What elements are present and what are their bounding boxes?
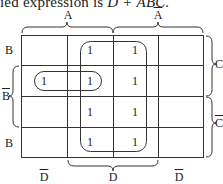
label-b-bar: B (0, 90, 12, 102)
label-b-bottom: B (3, 137, 15, 149)
label-c-bar: C (214, 117, 223, 129)
cell-r1-c3: 1 (129, 44, 141, 56)
cell-r4-c2: 1 (84, 136, 96, 148)
cell-r2-c2: 1 (84, 75, 96, 87)
label-b-top: B (3, 44, 15, 56)
cell-r2-c1: 1 (38, 75, 50, 87)
cell-r1-c2: 1 (84, 44, 96, 56)
label-d-bar-right: D (173, 171, 185, 183)
label-d: D (107, 171, 119, 183)
cell-r2-c3: 1 (129, 75, 141, 87)
cell-r4-c3: 1 (129, 136, 141, 148)
brace-a (22, 22, 113, 33)
cell-r3-c3: 1 (129, 106, 141, 118)
label-c: C (214, 58, 223, 70)
brace-a-bar (113, 22, 203, 33)
label-d-bar-left: D (38, 171, 50, 183)
label-a: A (62, 9, 74, 21)
cell-r3-c2: 1 (84, 106, 96, 118)
label-a-bar: A (152, 9, 164, 21)
karnaugh-map-diagram (0, 0, 223, 184)
